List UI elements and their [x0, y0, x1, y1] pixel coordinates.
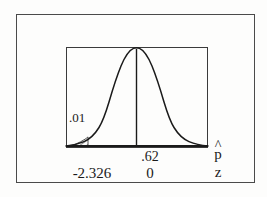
normal-curve-graphic	[66, 47, 208, 148]
critical-z-label: -2.326	[66, 166, 118, 181]
circumflex-icon: ^	[214, 138, 222, 152]
center-phat-label: .62	[128, 150, 172, 164]
axis-label-z: z	[205, 165, 231, 180]
figure-canvas: .01 .62 0 -2.326 ^ p z	[0, 0, 267, 197]
axis-label-phat: ^ p	[205, 147, 231, 162]
tail-area-label: .01	[69, 111, 85, 124]
center-z-label: 0	[128, 166, 172, 181]
